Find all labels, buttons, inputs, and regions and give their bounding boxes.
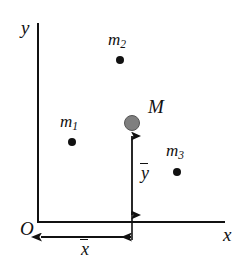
x-bar-label-text: x (81, 239, 89, 259)
point-label-m2: m2 (108, 31, 126, 48)
point-marker-m3 (173, 168, 181, 176)
y-axis-label: y (21, 18, 29, 37)
center-of-mass-label: M (148, 97, 164, 116)
point-label-m2-base: m (108, 30, 120, 49)
y-bar-label-text: y (141, 163, 149, 183)
point-label-m3: m3 (166, 142, 184, 159)
x-bar-label: x (81, 240, 89, 258)
point-label-m3-subscript: 3 (178, 149, 184, 162)
center-of-mass-figure: y x O m1 m2 m3 M y x (0, 0, 242, 266)
origin-label: O (20, 219, 34, 238)
point-label-m1: m1 (60, 113, 78, 130)
point-marker-m2 (116, 56, 124, 64)
point-marker-m1 (68, 138, 76, 146)
y-bar-label: y (141, 164, 149, 182)
x-bar-overbar (80, 239, 88, 240)
y-bar-overbar (140, 163, 148, 164)
point-label-m2-subscript: 2 (120, 38, 126, 51)
x-axis-label: x (223, 225, 231, 244)
point-label-m1-base: m (60, 112, 72, 131)
point-label-m1-subscript: 1 (72, 120, 78, 133)
point-marker-center-of-mass (125, 116, 140, 131)
point-label-m3-base: m (166, 141, 178, 160)
